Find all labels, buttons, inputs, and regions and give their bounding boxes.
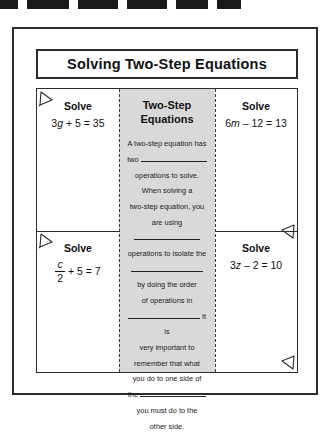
equation-remainder: + 5 = 7: [68, 265, 101, 277]
foldable-grid: Solve 3g + 5 = 35 Solve: [36, 88, 298, 373]
center-flap-title-line2: Equations: [140, 113, 193, 125]
body-line: other side.: [126, 419, 208, 433]
cell-bottom-left: Solve c 2 + 5 = 7: [37, 231, 119, 373]
equation-top-right: 6m – 12 = 13: [225, 117, 287, 129]
body-line: [126, 262, 208, 278]
body-line: the: [126, 387, 208, 403]
center-flap: Two-Step Equations A two-step equation h…: [119, 89, 215, 372]
left-column: Solve 3g + 5 = 35 Solve: [37, 89, 119, 372]
fill-in-blank[interactable]: [128, 318, 200, 319]
equation-remainder: + 5 = 35: [66, 117, 105, 129]
body-text: are using: [152, 218, 182, 227]
body-line: operations to solve.: [126, 168, 208, 184]
solve-label: Solve: [64, 100, 92, 112]
body-line: remember that what: [126, 356, 208, 372]
body-line: very important to: [126, 340, 208, 356]
cut-dash: [217, 0, 241, 9]
fold-line-left: [119, 89, 120, 372]
center-flap-title: Two-Step Equations: [140, 98, 193, 126]
equation-bottom-left: c 2 + 5 = 7: [55, 259, 101, 284]
body-text: other side.: [150, 422, 185, 431]
right-column: Solve 6m – 12 = 13 Solve 3z: [215, 89, 297, 372]
body-text: operations to isolate the: [128, 249, 206, 258]
equation-variable: z: [236, 259, 241, 271]
fraction-denominator: 2: [55, 273, 65, 284]
body-text: When solving a: [142, 186, 193, 195]
solve-label: Solve: [64, 242, 92, 254]
equation-remainder: – 2 = 10: [244, 259, 282, 271]
fill-in-blank[interactable]: [140, 396, 206, 397]
body-text: you must do to the: [137, 406, 198, 415]
body-text: two: [127, 155, 139, 164]
equation-top-left: 3g + 5 = 35: [51, 117, 104, 129]
body-text: A two-step equation has: [128, 139, 207, 148]
cut-edge-strip: [0, 0, 330, 13]
body-line: you must do to the: [126, 403, 208, 419]
worksheet-title-box: Solving Two-Step Equations: [36, 49, 298, 79]
body-text: very important to: [139, 343, 194, 352]
body-text: you do to one side of: [133, 374, 202, 383]
equation-remainder: – 12 = 13: [243, 117, 287, 129]
page-frame: Solving Two-Step Equations Solve: [12, 27, 318, 395]
equation-bottom-right: 3z – 2 = 10: [230, 259, 282, 271]
cell-top-left: Solve 3g + 5 = 35: [37, 89, 119, 231]
solve-label: Solve: [242, 100, 270, 112]
body-line: you do to one side of: [126, 371, 208, 387]
fill-in-blank[interactable]: [134, 239, 200, 240]
body-line: of operations in: [126, 293, 208, 309]
body-text: It is: [164, 312, 206, 337]
fraction-numerator: c: [55, 259, 64, 270]
fold-corner-icon: [280, 354, 296, 371]
fill-in-blank[interactable]: [131, 271, 203, 272]
center-flap-title-line1: Two-Step: [143, 99, 192, 111]
equation-variable: g: [57, 117, 63, 129]
equation-variable: m: [231, 117, 240, 129]
body-text: of operations in: [142, 296, 193, 305]
body-text: two-step equation, you: [130, 202, 204, 211]
body-line: two: [126, 152, 208, 168]
page-title: Solving Two-Step Equations: [67, 56, 267, 72]
body-line: When solving a: [126, 183, 208, 199]
fold-corner-icon: [38, 90, 54, 107]
body-line: It is: [126, 309, 208, 340]
body-text: by doing the order: [137, 280, 197, 289]
fraction: c 2: [55, 259, 65, 284]
body-line: by doing the order: [126, 277, 208, 293]
body-line: two-step equation, you: [126, 199, 208, 215]
body-text: remember that what: [134, 359, 200, 368]
fill-in-blank[interactable]: [141, 161, 207, 162]
fold-line-right: [215, 89, 216, 372]
cut-dash: [27, 0, 69, 9]
cell-top-right: Solve 6m – 12 = 13: [215, 89, 297, 231]
solve-label: Solve: [242, 242, 270, 254]
center-flap-body: A two-step equation has two operations t…: [126, 136, 208, 433]
body-line: are using: [126, 215, 208, 246]
center-flap-content: Two-Step Equations A two-step equation h…: [119, 89, 215, 372]
cut-dash: [127, 0, 167, 9]
cut-dash: [78, 0, 118, 9]
cell-bottom-right: Solve 3z – 2 = 10: [215, 231, 297, 373]
cut-dash: [176, 0, 208, 9]
worksheet-sheet: Solving Two-Step Equations Solve: [36, 49, 298, 376]
body-text: operations to solve.: [135, 171, 199, 180]
body-line: operations to isolate the: [126, 246, 208, 262]
cut-dash: [0, 0, 18, 9]
fold-corner-icon: [38, 232, 54, 249]
body-text: the: [128, 390, 138, 399]
body-line: A two-step equation has: [126, 136, 208, 152]
